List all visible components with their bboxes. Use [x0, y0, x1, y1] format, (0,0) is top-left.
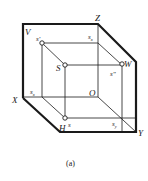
label-s-prime: s'	[36, 35, 41, 43]
label-s-x-left: sx	[30, 88, 35, 97]
label-W: W	[124, 59, 133, 69]
label-Y: Y	[138, 128, 144, 138]
label-s-y: sy	[112, 120, 117, 129]
label-s-h: s	[68, 121, 71, 129]
point-s-h	[63, 116, 67, 120]
label-V: V	[25, 27, 32, 37]
label-s-double-prime: s"	[110, 70, 116, 78]
point-s-prime	[40, 41, 44, 45]
label-H: H	[58, 123, 66, 133]
label-s-x-top: sx	[88, 33, 93, 42]
label-X: X	[11, 95, 18, 105]
label-S: S	[56, 63, 61, 73]
point-S	[63, 63, 67, 67]
label-O: O	[89, 88, 96, 98]
projection-cube-diagram: V Z X W Y H O S s' s" s sx sx sy (a)	[0, 0, 148, 181]
figure-caption: (a)	[66, 159, 75, 168]
label-Z: Z	[95, 13, 101, 23]
